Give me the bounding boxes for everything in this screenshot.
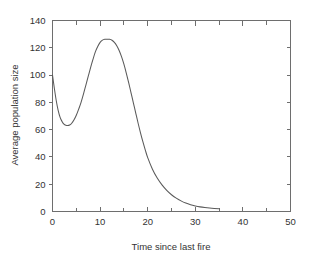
chart-figure: 01020304050 020406080100120140 Time sinc…: [0, 0, 310, 258]
x-tick-label: 40: [238, 216, 249, 227]
y-tick-label: 120: [30, 42, 46, 53]
x-tick-label: 50: [285, 216, 296, 227]
y-tick-label: 0: [40, 206, 45, 217]
plot-frame: [53, 21, 291, 212]
y-tick-label: 60: [35, 124, 46, 135]
y-axis-tick-labels: 020406080100120140: [30, 15, 46, 217]
x-tick-label: 30: [190, 216, 201, 227]
population-curve: [53, 39, 220, 209]
y-tick-label: 140: [30, 15, 46, 26]
x-tick-label: 0: [50, 216, 55, 227]
population-line-chart: 01020304050 020406080100120140 Time sinc…: [0, 0, 310, 258]
y-tick-label: 100: [30, 69, 46, 80]
y-axis-ticks: [49, 48, 291, 184]
x-axis-title: Time since last fire: [132, 241, 211, 252]
y-tick-label: 80: [35, 97, 46, 108]
x-tick-label: 20: [142, 216, 153, 227]
x-tick-label: 10: [95, 216, 106, 227]
y-axis-title: Average population size: [9, 64, 20, 165]
x-axis-ticks: [76, 21, 266, 212]
x-axis-tick-labels: 01020304050: [50, 216, 296, 227]
y-tick-label: 20: [35, 179, 46, 190]
y-tick-label: 40: [35, 151, 46, 162]
